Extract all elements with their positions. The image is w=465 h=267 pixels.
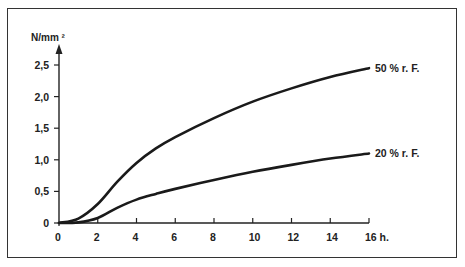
- x-tick-label: 8: [210, 231, 216, 243]
- x-tick-label: 10: [249, 231, 261, 243]
- y-axis-arrow-icon: [56, 44, 63, 54]
- series-label-50-percent: 50 % r. F.: [375, 62, 419, 74]
- x-tick-label: 16 h.: [365, 231, 389, 243]
- x-tick-label: 4: [133, 231, 139, 243]
- series-lines: [59, 68, 369, 223]
- y-tick-label: 0: [43, 217, 49, 229]
- y-tick-label: 2,0: [34, 91, 49, 103]
- x-tick-label: 12: [288, 231, 300, 243]
- x-tick-label: 0: [55, 231, 61, 243]
- series-line-20-percent: [59, 153, 369, 223]
- x-tick-label: 6: [171, 231, 177, 243]
- y-axis-unit-label: N/mm ²: [31, 32, 66, 43]
- y-tick-label: 0,5: [34, 185, 49, 197]
- y-tick-label: 1,5: [34, 122, 49, 134]
- series-line-50-percent: [59, 68, 369, 223]
- series-label-20-percent: 20 % r. F.: [375, 147, 419, 159]
- x-tick-label: 2: [94, 231, 100, 243]
- y-tick-label: 2,5: [34, 59, 49, 71]
- line-chart: 00,51,01,52,02,50246810121416 h.N/mm ²50…: [0, 0, 465, 267]
- x-tick-label: 14: [326, 231, 338, 243]
- y-tick-label: 1,0: [34, 154, 49, 166]
